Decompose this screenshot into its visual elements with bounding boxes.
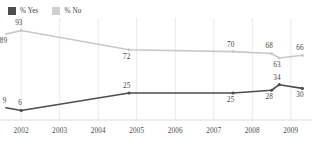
legend-swatch-yes-icon	[8, 7, 16, 15]
datapoint-no-63	[278, 57, 281, 60]
legend-item-no: % No	[52, 7, 81, 15]
datapoint-yes-25	[231, 91, 234, 94]
value-label-34: 34	[273, 74, 280, 82]
value-label-9: 9	[3, 97, 7, 105]
value-label-70: 70	[227, 41, 234, 49]
legend-item-yes: % Yes	[8, 7, 38, 15]
datapoint-yes-30	[301, 87, 304, 90]
chart-legend: % Yes % No	[8, 4, 81, 17]
value-label-30: 30	[296, 91, 303, 99]
x-tick-2003: 2003	[52, 127, 67, 136]
plot-area: 89937270686366962525283430	[0, 18, 312, 122]
datapoint-no-66	[301, 54, 304, 57]
datapoint-no-70	[232, 50, 235, 53]
datapoint-no-93	[20, 29, 23, 32]
datapoint-yes-6	[20, 109, 23, 112]
legend-label-no: % No	[64, 7, 81, 15]
datapoint-yes-28	[270, 89, 273, 92]
x-tick-2005: 2005	[129, 127, 144, 136]
legend-label-yes: % Yes	[20, 7, 38, 15]
series-markers-yes	[20, 83, 304, 112]
series-line-yes	[6, 85, 303, 111]
series-line-no	[6, 30, 303, 58]
value-label-93: 93	[15, 19, 22, 27]
value-label-68: 68	[266, 42, 273, 50]
value-label-25: 25	[123, 82, 130, 90]
value-label-66: 66	[296, 44, 303, 52]
x-tick-2009: 2009	[283, 127, 298, 136]
legend-swatch-no-icon	[52, 7, 60, 15]
value-label-25: 25	[227, 96, 234, 104]
x-tick-2002: 2002	[14, 127, 29, 136]
value-label-63: 63	[273, 61, 280, 69]
x-tick-2008: 2008	[245, 127, 260, 136]
value-label-89: 89	[0, 37, 7, 45]
chart-container: % Yes % No 89937270686366962525283430 20…	[0, 0, 312, 146]
x-tick-2007: 2007	[206, 127, 221, 136]
value-label-6: 6	[18, 99, 22, 107]
x-tick-2006: 2006	[168, 127, 183, 136]
value-label-72: 72	[123, 53, 130, 61]
x-tick-2004: 2004	[91, 127, 106, 136]
datapoint-no-68	[270, 52, 273, 55]
series-markers-no	[20, 29, 304, 60]
datapoint-yes-34	[278, 83, 281, 86]
datapoint-no-72	[128, 48, 131, 51]
datapoint-yes-25	[127, 91, 130, 94]
chart-svg	[0, 18, 312, 122]
value-label-28: 28	[266, 93, 273, 101]
x-axis: 20022003200420052006200720082009	[0, 122, 312, 146]
